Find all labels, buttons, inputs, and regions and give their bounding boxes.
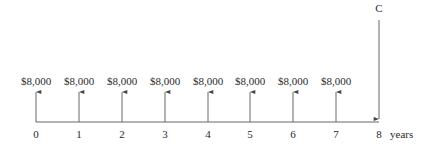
tick-1: 1: [76, 128, 82, 140]
tick-4: 4: [205, 128, 211, 140]
inflow-amount-4: $8,000: [193, 75, 223, 87]
inflow-arrows: [36, 92, 336, 122]
tick-5: 5: [247, 128, 253, 140]
inflow-amount-0: $8,000: [21, 75, 51, 87]
inflow-amount-3: $8,000: [150, 75, 180, 87]
tick-7: 7: [333, 128, 339, 140]
tick-0: 0: [33, 128, 39, 140]
inflow-amount-2: $8,000: [107, 75, 137, 87]
tick-6: 6: [290, 128, 296, 140]
tick-8: 8: [376, 128, 382, 140]
inflow-amount-6: $8,000: [278, 75, 308, 87]
tick-3: 3: [162, 128, 168, 140]
axis-unit-label: years: [390, 128, 413, 140]
outflow-label: C: [375, 2, 382, 14]
tick-2: 2: [119, 128, 125, 140]
inflow-amount-7: $8,000: [321, 75, 351, 87]
inflow-amount-1: $8,000: [64, 75, 94, 87]
inflow-amount-5: $8,000: [235, 75, 265, 87]
